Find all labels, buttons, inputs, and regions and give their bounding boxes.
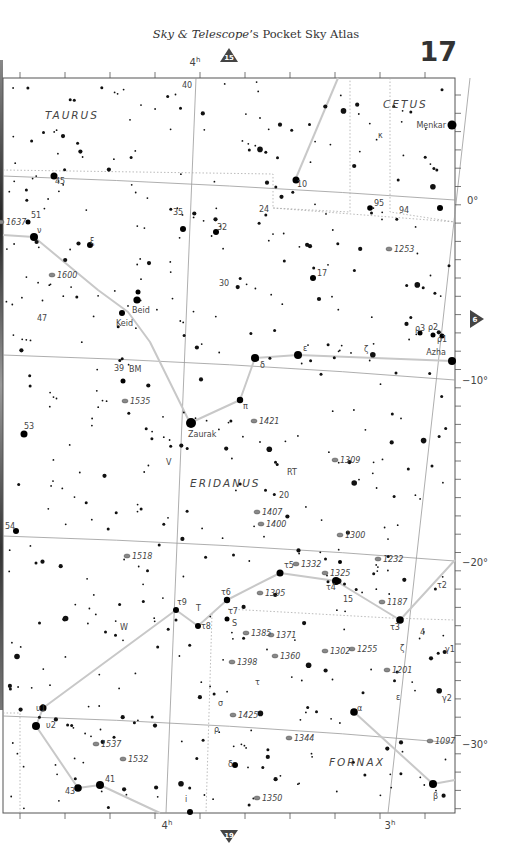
field-star <box>353 409 355 411</box>
field-star <box>214 181 216 183</box>
field-star <box>257 91 259 93</box>
star-label: τ2 <box>437 581 447 590</box>
galaxy-icon <box>257 591 263 595</box>
field-star <box>158 543 161 546</box>
field-star <box>336 242 339 245</box>
field-star <box>325 213 327 215</box>
field-star <box>56 129 58 131</box>
field-star <box>228 422 230 424</box>
galaxy-icon <box>272 654 278 658</box>
dso-label: 1300 <box>345 531 365 540</box>
field-star <box>70 724 73 727</box>
field-star <box>298 553 300 555</box>
field-star <box>195 757 198 760</box>
field-star <box>302 621 306 625</box>
star-label: τ4 <box>326 583 336 592</box>
field-star <box>229 419 232 422</box>
field-star <box>358 247 362 251</box>
field-star <box>25 339 27 341</box>
field-star <box>147 261 151 265</box>
field-star <box>98 705 100 707</box>
field-star <box>21 297 23 299</box>
field-star <box>98 674 100 676</box>
field-star <box>169 445 172 448</box>
nav-arrow-up-page-15[interactable]: 15 <box>220 48 238 62</box>
ra-axis-label: 3h <box>385 819 396 831</box>
field-star <box>297 783 299 785</box>
field-star <box>23 766 25 768</box>
field-star <box>370 211 373 214</box>
galaxy-icon <box>122 399 128 403</box>
field-star <box>78 150 82 154</box>
field-star <box>203 220 205 222</box>
field-star <box>186 510 189 513</box>
field-star <box>390 440 394 444</box>
field-star <box>150 437 153 440</box>
field-star <box>411 681 413 683</box>
dso-label: 1360 <box>280 652 300 661</box>
nav-arrow-down-page-19[interactable]: 19 <box>220 830 238 843</box>
field-star <box>137 504 139 506</box>
field-star <box>280 775 282 777</box>
bright-star <box>367 205 373 211</box>
field-star <box>170 271 172 273</box>
field-star <box>236 285 240 289</box>
dso-label: 1385 <box>251 629 271 638</box>
field-star <box>38 622 41 625</box>
field-star <box>369 123 371 125</box>
galaxy-icon <box>254 510 260 514</box>
field-star <box>53 396 55 398</box>
field-star <box>17 483 20 486</box>
field-star <box>137 511 139 513</box>
star-label: 53 <box>24 422 34 431</box>
field-star <box>330 144 332 146</box>
field-star <box>231 632 233 634</box>
field-star <box>14 162 16 164</box>
field-star <box>327 264 329 266</box>
field-star <box>311 753 313 755</box>
named-star-label: Zaurak <box>188 430 217 439</box>
field-star <box>29 384 32 387</box>
star-label: ρ <box>214 725 219 734</box>
field-star <box>74 777 77 780</box>
field-star <box>409 316 412 319</box>
field-star <box>93 316 95 318</box>
field-star <box>151 431 153 433</box>
field-star <box>114 92 116 94</box>
field-star <box>193 311 195 313</box>
field-star <box>372 472 374 474</box>
bright-star <box>121 379 126 384</box>
constellation-name: ERIDANUS <box>190 477 261 489</box>
field-star <box>121 357 124 360</box>
field-star <box>179 107 182 110</box>
field-star <box>403 155 405 157</box>
field-star <box>211 235 213 237</box>
field-star <box>115 620 117 622</box>
field-star <box>352 164 356 168</box>
field-star <box>44 208 46 210</box>
field-star <box>376 570 378 572</box>
field-star <box>409 110 412 113</box>
nav-arrow-right-page-6[interactable]: 6 <box>470 310 484 328</box>
dso-label: 1350 <box>262 794 282 803</box>
field-star <box>52 480 54 482</box>
field-star <box>375 588 377 590</box>
star-label: ρ3 <box>415 324 425 333</box>
field-star <box>373 343 375 345</box>
field-star <box>339 722 341 724</box>
star-chart: 1637125316001535142113091407140013001518… <box>0 0 512 862</box>
field-star <box>96 369 98 371</box>
dso-label: 1309 <box>340 456 360 465</box>
field-star <box>101 791 103 793</box>
field-star <box>179 320 181 322</box>
field-star <box>274 777 278 781</box>
field-star <box>137 719 139 721</box>
field-star <box>296 548 300 552</box>
field-star <box>266 649 268 651</box>
field-star <box>278 123 282 127</box>
field-star <box>312 266 315 269</box>
field-star <box>256 81 258 83</box>
field-star <box>82 762 84 764</box>
field-star <box>402 578 406 582</box>
field-star <box>273 329 276 332</box>
